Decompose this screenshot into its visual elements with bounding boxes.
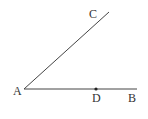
label-a: A [13, 84, 22, 98]
ray-ac [24, 12, 109, 89]
label-d: D [92, 91, 101, 105]
label-c: C [89, 7, 97, 21]
label-b: B [128, 91, 136, 105]
angle-diagram: A C D B [0, 0, 148, 119]
